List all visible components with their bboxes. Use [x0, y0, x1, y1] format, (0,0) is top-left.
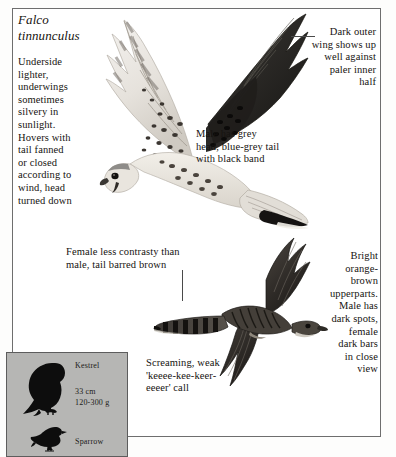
scientific-name: Falco tinnunculus — [18, 12, 80, 44]
kestrel-underside-illustration — [88, 4, 312, 234]
legend-kestrel-label: Kestrel — [75, 361, 100, 370]
annotation-underside: Underside lighter, underwings sometimes … — [18, 56, 92, 207]
sparrow-silhouette-icon — [29, 423, 69, 453]
kestrel-silhouette-icon — [15, 357, 73, 419]
leader-line-female-contrast — [182, 270, 183, 301]
legend-sparrow-label: Sparrow — [75, 437, 104, 446]
size-comparison-legend: Kestrel 33 cm 120-300 g Sparrow — [6, 352, 128, 457]
annotation-male-head-tail: Male has grey head, blue-grey tail with … — [196, 128, 316, 166]
legend-size-measurements: 33 cm 120-300 g — [75, 386, 109, 408]
annotation-dark-outer-wing: Dark outer wing shows up well against pa… — [292, 26, 376, 89]
annotation-upperparts: Bright orange- brown upperparts. Male ha… — [304, 250, 378, 376]
annotation-call: Screaming, weak 'keeee-kee-keer- eeeer' … — [146, 357, 266, 395]
field-guide-plate: Falco tinnunculus Underside lighter, und… — [0, 0, 396, 457]
annotation-female-contrast: Female less contrasty than male, tail ba… — [66, 246, 226, 271]
